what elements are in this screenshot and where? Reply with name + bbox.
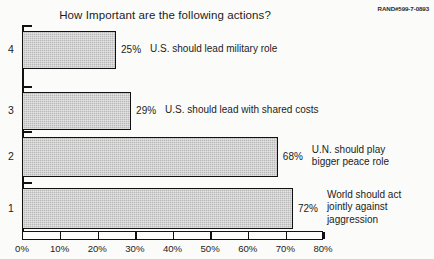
bar-description-3: U.S. should lead with shared costs bbox=[165, 104, 318, 116]
bar-3 bbox=[22, 92, 131, 130]
bar-description-4: U.S. should lead military role bbox=[150, 43, 277, 55]
bar-description-1: World should act jointly against jaggres… bbox=[327, 189, 401, 226]
x-axis-label-70%: 70% bbox=[276, 243, 295, 254]
bar-value-2: 68% bbox=[283, 151, 303, 162]
category-label-4: 4 bbox=[4, 43, 18, 55]
x-axis-label-30%: 30% bbox=[125, 243, 144, 254]
bar-4 bbox=[22, 31, 116, 69]
rand-document-id: RAND#599-7-0893 bbox=[378, 5, 429, 12]
chart-title: How Important are the following actions? bbox=[0, 9, 330, 21]
x-tick-60% bbox=[248, 232, 249, 239]
x-tick-20% bbox=[98, 232, 99, 239]
y-tick-4 bbox=[22, 25, 32, 27]
x-tick-50% bbox=[210, 232, 211, 239]
x-tick-40% bbox=[173, 232, 174, 239]
x-axis-label-40%: 40% bbox=[163, 243, 182, 254]
bar-1 bbox=[22, 188, 293, 229]
x-axis-label-0%: 0% bbox=[15, 243, 29, 254]
x-axis-label-20%: 20% bbox=[88, 243, 107, 254]
x-tick-80% bbox=[323, 232, 324, 239]
x-axis-label-50%: 50% bbox=[201, 243, 220, 254]
category-label-2: 2 bbox=[4, 150, 18, 162]
bar-description-2: U.N. should play bigger peace role bbox=[312, 144, 389, 169]
x-tick-10% bbox=[60, 232, 61, 239]
y-tick-3 bbox=[22, 86, 32, 88]
x-axis-label-60%: 60% bbox=[238, 243, 257, 254]
bar-value-3: 29% bbox=[136, 105, 156, 116]
bar-2 bbox=[22, 137, 278, 177]
x-axis-label-10%: 10% bbox=[50, 243, 69, 254]
y-tick-1 bbox=[22, 182, 32, 184]
x-axis-band bbox=[22, 231, 323, 240]
category-label-1: 1 bbox=[4, 202, 18, 214]
bar-value-4: 25% bbox=[121, 44, 141, 55]
x-tick-30% bbox=[135, 232, 136, 239]
x-tick-70% bbox=[286, 232, 287, 239]
y-tick-2 bbox=[22, 131, 32, 133]
bar-value-1: 72% bbox=[298, 203, 318, 214]
category-label-3: 3 bbox=[4, 104, 18, 116]
x-axis-label-80%: 80% bbox=[313, 243, 332, 254]
